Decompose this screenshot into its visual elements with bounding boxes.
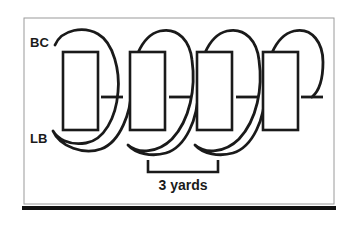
blocking-bag-3 <box>197 52 232 130</box>
diagram-canvas: BC LB 3 yards <box>0 0 356 229</box>
blocking-bag-4 <box>263 52 298 130</box>
blocking-bag-2 <box>130 52 165 130</box>
blocking-bag-1 <box>63 52 98 130</box>
label-lb: LB <box>30 131 47 146</box>
drill-diagram-svg: BC LB 3 yards <box>0 0 356 229</box>
label-bc: BC <box>30 35 49 50</box>
measurement-label: 3 yards <box>158 177 207 193</box>
